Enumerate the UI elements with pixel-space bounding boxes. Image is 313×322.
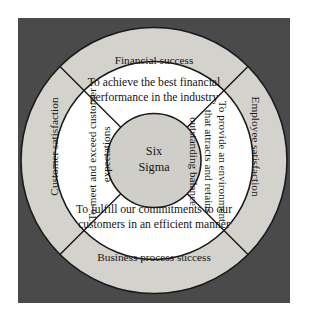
core-circle	[107, 114, 201, 208]
figure-canvas: Financial success Business process succe…	[0, 0, 313, 322]
diagram-panel: Financial success Business process succe…	[18, 18, 290, 303]
ring-diagram-svg	[18, 18, 290, 303]
